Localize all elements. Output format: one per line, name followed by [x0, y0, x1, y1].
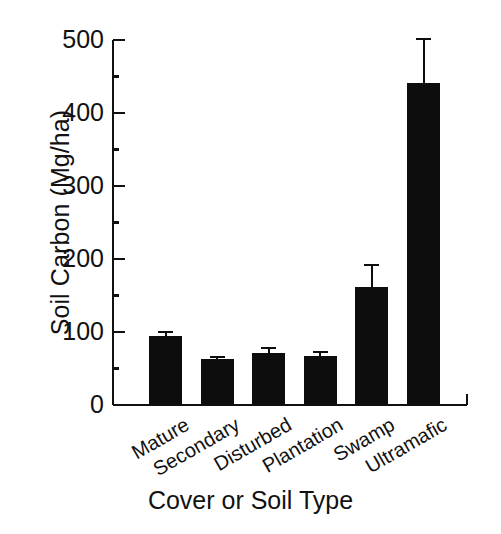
x-axis-title: Cover or Soil Type — [0, 486, 501, 515]
error-bar-stem-swamp — [371, 264, 373, 287]
error-bar-cap-ultramafic — [416, 38, 431, 40]
bar-mature — [149, 336, 182, 405]
error-bar-cap-mature — [158, 331, 173, 333]
bar-swamp — [355, 287, 388, 405]
error-bar-cap-secondary — [210, 356, 225, 358]
error-bar-stem-ultramafic — [423, 38, 425, 83]
bar-chart-figure: Soil Carbon (Mg/ha) 0100200300400500 Mat… — [0, 0, 501, 534]
bar-plantation — [304, 356, 337, 405]
bar-disturbed — [252, 353, 285, 405]
bars-layer: MatureSecondaryDisturbedPlantationSwampU… — [0, 0, 501, 534]
error-bar-cap-plantation — [313, 351, 328, 353]
bar-secondary — [201, 359, 234, 405]
error-bar-cap-disturbed — [261, 347, 276, 349]
bar-ultramafic — [407, 83, 440, 405]
error-bar-cap-swamp — [364, 264, 379, 266]
